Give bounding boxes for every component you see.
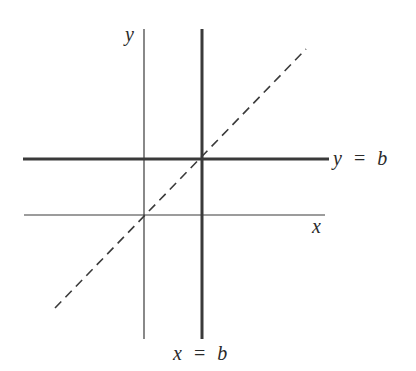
- y-equals-b-label: y = b: [331, 147, 387, 170]
- x-equals-b-var: x: [172, 342, 182, 364]
- y-equals-b-eq: =: [354, 147, 365, 169]
- x-equals-b-label: x = b: [172, 342, 227, 364]
- y-equals-b-var: y: [331, 147, 342, 170]
- x-equals-b-val: b: [217, 342, 227, 364]
- x-axis-label: x: [311, 215, 321, 237]
- line-y-equals-x-dashed: [55, 49, 306, 308]
- x-equals-b-eq: =: [194, 342, 205, 364]
- y-equals-b-val: b: [377, 147, 387, 169]
- diagram-canvas: y x y = b x = b: [0, 0, 416, 371]
- y-axis-label: y: [123, 23, 134, 46]
